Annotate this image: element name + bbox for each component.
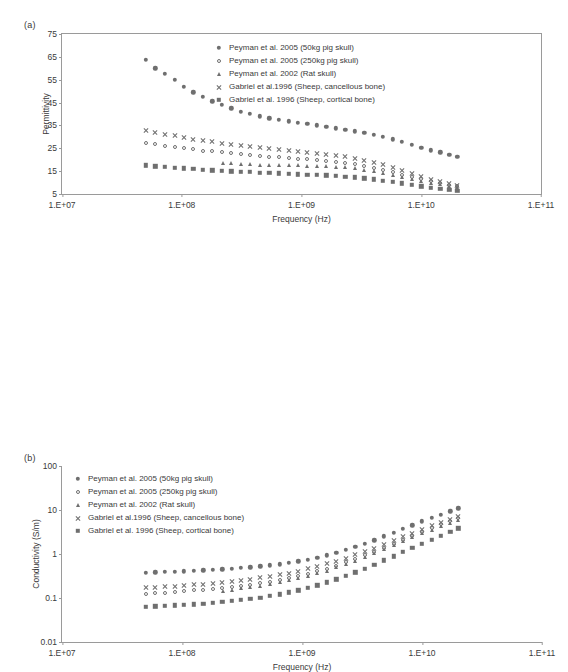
legend-marker-square-filled-icon [72,525,84,537]
marker-square-filled-icon [325,580,329,584]
marker-circle-filled-icon [325,553,329,557]
marker-triangle-filled-icon [372,551,376,555]
legend-item-label: Peyman et al. 2005 (50kg pig skull) [229,44,354,52]
legend-item-label: Peyman et al. 2002 (Rat skull) [229,70,336,78]
marker-square-filled-icon [268,594,272,598]
marker-triangle-filled-icon [410,535,414,539]
marker-triangle-filled-icon [419,179,423,183]
marker-square-filled-icon [352,175,356,179]
legend-marker-circle-open-icon [72,486,84,498]
legend-marker-circle-filled-icon [72,473,84,485]
marker-triangle-filled-icon [353,166,357,170]
marker-circle-open-icon [239,152,243,156]
marker-square-filled-icon [172,166,176,170]
marker-circle-open-icon [438,181,442,185]
marker-square-filled-icon [400,181,404,185]
marker-cross-icon [371,159,377,165]
marker-square-filled-icon [391,554,395,558]
marker-square-filled-icon [248,170,252,174]
marker-cross-icon [352,155,358,161]
marker-square-filled-icon [400,550,404,554]
marker-circle-open-icon [278,578,282,582]
marker-circle-open-icon [353,162,357,166]
marker-square-filled-icon [344,574,348,578]
marker-square-filled-icon [143,163,147,167]
marker-square-filled-icon [296,172,300,176]
marker-circle-filled-icon [172,78,176,82]
marker-circle-filled-icon [153,66,157,70]
marker-circle-filled-icon [438,150,442,154]
marker-circle-filled-icon [182,84,186,88]
marker-triangle-filled-icon [391,173,395,177]
marker-circle-filled-icon [420,519,424,523]
marker-triangle-filled-icon [363,555,367,559]
legend-item: Peyman et al. 2005 (250kg pig skull) [72,485,244,498]
marker-circle-open-icon [344,560,348,564]
panel-b: (b) 0.010.1110100 1.E+071.E+081.E+091.E+… [0,225,568,467]
marker-triangle-filled-icon [296,576,300,580]
marker-circle-open-icon [305,157,309,161]
marker-circle-open-icon [210,149,214,153]
y-tick-label: 55 [48,75,62,85]
marker-triangle-filled-icon [401,539,405,543]
marker-circle-filled-icon [400,140,404,144]
marker-cross-icon [419,526,425,532]
y-tick-label: 65 [48,52,62,62]
marker-triangle-filled-icon [372,169,376,173]
x-tick-label: 1.E+11 [528,200,555,210]
marker-cross-icon [295,148,301,154]
marker-cross-icon [191,581,197,587]
marker-square-filled-icon [334,577,338,581]
x-tick-label: 1.E+10 [408,648,435,658]
marker-circle-filled-icon [353,545,357,549]
marker-circle-open-icon [173,145,177,149]
marker-circle-filled-icon [144,571,148,575]
y-tick-label: 10 [48,505,62,515]
marker-circle-filled-icon [162,72,166,76]
marker-circle-open-icon [191,147,195,151]
marker-circle-filled-icon [153,570,157,574]
marker-cross-icon [200,581,206,587]
legend-item-label: Peyman et al. 2002 (Rat skull) [88,501,195,509]
marker-triangle-filled-icon [362,168,366,172]
legend-item: Peyman et al. 2002 (Rat skull) [72,498,244,511]
marker-circle-open-icon [230,585,234,589]
marker-circle-filled-icon [371,132,375,136]
marker-triangle-filled-icon [258,163,262,167]
marker-cross-icon [352,551,358,557]
marker-square-filled-icon [153,164,157,168]
legend-marker-square-filled-icon [213,94,225,106]
marker-square-filled-icon [315,583,319,587]
marker-square-filled-icon [287,590,291,594]
x-tick-label: 1.E+09 [288,200,315,210]
marker-cross-icon [409,170,415,176]
marker-circle-filled-icon [267,116,271,120]
marker-circle-open-icon [287,576,291,580]
marker-circle-open-icon [429,179,433,183]
marker-square-filled-icon [419,184,423,188]
marker-triangle-filled-icon [221,589,225,593]
marker-cross-icon [229,578,235,584]
marker-triangle-filled-icon [343,165,347,169]
marker-triangle-filled-icon [217,72,221,76]
marker-circle-filled-icon [296,559,300,563]
legend-marker-triangle-filled-icon [213,68,225,80]
marker-circle-open-icon [343,161,347,165]
marker-cross-icon [362,548,368,554]
marker-square-filled-icon [258,170,262,174]
marker-square-filled-icon [333,174,337,178]
marker-square-filled-icon [173,603,177,607]
marker-square-filled-icon [315,173,319,177]
marker-circle-filled-icon [191,569,195,573]
marker-triangle-filled-icon [448,521,452,525]
marker-triangle-filled-icon [429,181,433,185]
marker-circle-open-icon [353,557,357,561]
marker-circle-open-icon [296,157,300,161]
marker-circle-filled-icon [201,568,205,572]
marker-circle-filled-icon [363,541,367,545]
marker-cross-icon [143,584,149,590]
marker-cross-icon [276,146,282,152]
marker-cross-icon [314,150,320,156]
marker-triangle-filled-icon [267,163,271,167]
